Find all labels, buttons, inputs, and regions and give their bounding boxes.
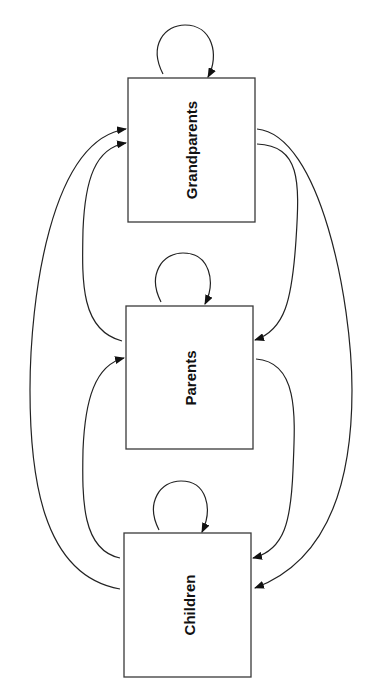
edge-children-to-parents [83, 358, 124, 558]
edge-parents-to-children [253, 359, 294, 558]
edge-grandparents-to-parents [255, 144, 298, 340]
self-loop-parents [156, 253, 211, 304]
node-parents: Parents [126, 306, 253, 449]
edge-grandparents-to-children [255, 129, 352, 588]
node-grandparents: Grandparents [128, 78, 255, 222]
self-loop-children [154, 481, 208, 532]
node-label-parents: Parents [182, 350, 199, 405]
family-flow-diagram: Grandparents Parents Children [0, 0, 368, 698]
node-children: Children [124, 533, 251, 677]
node-label-children: Children [181, 575, 198, 636]
edge-parents-to-grandparents [83, 143, 126, 341]
self-loop-grandparents [157, 25, 213, 77]
edge-children-to-grandparents [30, 129, 126, 589]
node-label-grandparents: Grandparents [183, 101, 200, 199]
